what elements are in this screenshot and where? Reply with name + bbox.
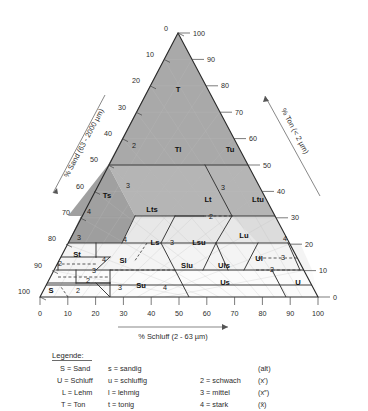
right-tick-10: 0 [333,293,337,302]
class-label-Lts: Lts [146,205,157,214]
bottom-tick-9: 90 [286,309,294,318]
class-label-Uls: Uls [218,261,230,270]
class-label-S: S [48,286,53,295]
bottom-axis-title: % Schluff (2 - 63 µm) [138,332,207,341]
bottom-axis-arrow [222,324,228,330]
legend-minor-3: t = tonig [108,400,134,409]
grade-mark-12: 2 [270,265,274,274]
bottom-tick-3: 30 [119,309,127,318]
legend: Legende: S = Sand s = sandig (alt) U = S… [52,351,271,409]
class-label-Lu: Lu [239,231,249,240]
grade-mark-11: 3 [281,253,285,262]
ternary-diagram-svg: 0 10 20 30 40 50 60 70 80 90 100 100 90 … [0,0,368,411]
legend-major-2: L = Lehm [62,388,92,397]
bottom-tick-5: 50 [175,309,183,318]
region-Tl-Tu-band [108,165,275,216]
class-label-Ltu: Ltu [252,195,264,204]
bottom-tick-1: 10 [64,309,72,318]
legend-major-0: S = Sand [60,364,90,373]
class-label-Ul: Ul [255,254,263,263]
legend-alt-0: (alt) [258,364,271,373]
class-label-Tl: Tl [175,145,182,154]
legend-minor-0: s = sandig [108,364,141,373]
right-axis-arrow [263,96,269,102]
left-tick-7: 70 [62,208,70,217]
bottom-tick-6: 60 [203,309,211,318]
class-label-Tu: Tu [226,145,235,154]
bottom-tick-2: 20 [92,309,100,318]
class-label-Lsu: Lsu [192,238,206,247]
legend-grade-2: 3 = mittel [200,388,230,397]
bottom-tick-8: 80 [258,309,266,318]
class-label-St: St [73,250,81,259]
legend-title: Legende: [52,351,84,360]
bottom-axis-title-group: % Schluff (2 - 63 µm) [118,324,228,341]
legend-alt-1: (x') [258,376,268,385]
grade-mark-9: 2 [58,259,62,268]
left-tick-2: 20 [132,76,140,85]
legend-minor-2: l = lehmig [108,388,139,397]
grade-mark-17: 2 [76,286,80,295]
class-label-Slu: Slu [181,261,193,270]
class-label-U: U [295,278,301,287]
grade-mark-13: 3 [92,266,96,275]
class-label-Lt: Lt [204,195,212,204]
legend-alt-3: (x̄) [258,400,267,409]
bottom-tick-7: 70 [231,309,239,318]
class-label-Ls: Ls [151,238,160,247]
legend-major-1: U = Schluff [57,376,94,385]
legend-grade-1: 2 = schwach [200,376,241,385]
right-axis-title-group: % Ton (< 2 µm) [263,96,320,196]
grade-mark-5: 3 [77,233,81,242]
grade-mark-8: 4 [283,234,287,243]
legend-alt-2: (x″) [258,388,269,397]
grade-mark-4: 2 [209,212,213,221]
legend-major-3: T = Ton [61,400,85,409]
grade-mark-3: 3 [221,183,225,192]
left-tick-10: 100 [18,287,30,296]
bottom-tick-4: 40 [147,309,155,318]
left-tick-6: 60 [76,182,84,191]
right-tick-3: 70 [235,108,243,117]
grade-mark-7: 3 [170,238,174,247]
left-tick-0: 0 [164,24,168,33]
bottom-tick-0: 0 [38,309,42,318]
left-tick-9: 90 [34,261,42,270]
right-tick-1: 90 [207,55,215,64]
grade-mark-6: 4 [123,235,127,244]
right-tick-0: 100 [193,29,205,38]
class-label-T: T [176,85,181,94]
class-label-Ts: Ts [103,191,111,200]
left-tick-4: 40 [104,129,112,138]
legend-grade-3: 4 = stark [200,400,229,409]
right-tick-6: 40 [277,187,285,196]
soil-texture-triangle-figure: 0 10 20 30 40 50 60 70 80 90 100 100 90 … [0,0,368,411]
class-label-Su: Su [136,281,146,290]
grade-mark-10: 4 [102,255,106,264]
grade-mark-16: 4 [163,283,167,292]
grade-mark-1: 3 [126,181,130,190]
class-label-Sl: Sl [119,256,126,265]
right-tick-8: 20 [305,240,313,249]
grade-mark-14: 2 [86,276,90,285]
right-tick-5: 50 [263,161,271,170]
legend-minor-1: u = schluffig [108,376,147,385]
right-tick-4: 60 [249,134,257,143]
grade-mark-2: 4 [87,207,91,216]
left-axis-title: % Sand (63 - 2000 µm) [62,107,106,179]
left-tick-1: 10 [146,50,154,59]
left-tick-5: 50 [90,155,98,164]
class-label-Us: Us [220,278,230,287]
right-tick-7: 30 [291,213,299,222]
grade-mark-0: 2 [132,141,136,150]
left-tick-3: 30 [118,103,126,112]
bottom-axis-ticks: 0 10 20 30 40 50 60 70 80 90 100 [38,309,324,318]
grade-mark-15: 3 [118,283,122,292]
right-tick-9: 10 [319,266,327,275]
bottom-tick-10: 100 [312,309,324,318]
left-tick-8: 80 [48,234,56,243]
right-tick-2: 80 [221,81,229,90]
